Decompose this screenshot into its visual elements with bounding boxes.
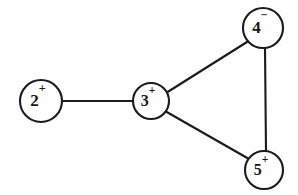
graph-node-3[interactable]: 3+ — [133, 83, 169, 119]
graph-diagram: 2+3+4−5+ — [0, 0, 298, 195]
node-layer: 2+3+4−5+ — [20, 8, 283, 189]
node-charge-4: − — [261, 8, 268, 22]
edge-4-5 — [265, 48, 266, 151]
node-charge-2: + — [39, 81, 46, 95]
node-charge-3: + — [149, 83, 156, 95]
graph-node-4[interactable]: 4− — [243, 8, 283, 48]
graph-node-2[interactable]: 2+ — [20, 80, 62, 122]
edge-3-4 — [166, 42, 247, 93]
diagram-canvas: 2+3+4−5+ — [0, 0, 298, 195]
node-charge-5: + — [262, 152, 269, 164]
graph-node-5[interactable]: 5+ — [245, 151, 283, 189]
edge-3-5 — [165, 111, 249, 159]
